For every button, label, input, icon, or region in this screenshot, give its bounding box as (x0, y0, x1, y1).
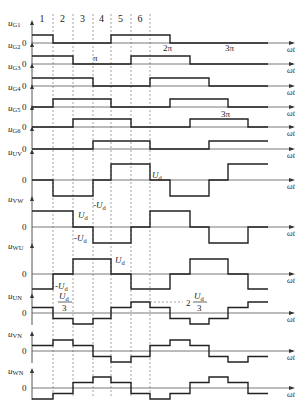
waveform-row-uG5: ωtuG50 (8, 103, 296, 138)
waveform-row-uUN: ωtuUN0 (8, 291, 296, 325)
two-ud-over-3-denominator: 3 (197, 303, 202, 313)
omega-t-label: ωt (287, 353, 296, 362)
omega-t-label: ωt (287, 109, 296, 118)
waveform-row-uVW: ωtuVW0 (8, 194, 296, 247)
y-axis-arrow-icon (30, 20, 34, 25)
waveform-rows: ωtuG10ωtuG20ωtuG30ωtuG40ωtuG50ωtuG60ωtuU… (8, 18, 296, 400)
zero-label: 0 (22, 222, 27, 232)
row-label: uWU (8, 241, 24, 251)
sector-label: 6 (138, 13, 143, 24)
zero-label: 0 (22, 175, 27, 185)
ud-over-3-numerator: Ud (59, 291, 70, 302)
zero-label: 0 (22, 383, 27, 393)
two-ud-over-3-numerator: Ud (194, 291, 205, 302)
three-pi-label: 3π (225, 43, 235, 53)
row-label: uUV (8, 147, 22, 157)
uvw-neg-ud-label: -Ud (74, 233, 88, 244)
uuv-neg-ud-label: -Ud (93, 200, 107, 211)
omega-t-label: ωt (287, 151, 296, 160)
waveform-row-uG2: ωtuG20 (8, 40, 296, 75)
omega-t-label: ωt (287, 229, 296, 238)
zero-label: 0 (22, 269, 27, 279)
uwu-ud-label: Ud (115, 255, 126, 266)
y-axis-arrow-icon (30, 196, 34, 201)
three-pi-label-g4: 3π (221, 109, 231, 119)
zero-label: 0 (22, 81, 27, 91)
zero-label: 0 (22, 59, 27, 69)
row-label: uWN (8, 366, 24, 376)
omega-t-label: ωt (287, 88, 296, 97)
waveform-row-uVN: ωtuVN0 (8, 329, 296, 363)
y-axis-arrow-icon (30, 84, 34, 89)
waveform-row-uG6: ωtuG60 (8, 124, 296, 160)
row-label: uVN (8, 329, 22, 339)
y-axis-arrow-icon (30, 293, 34, 298)
sector-label: 5 (118, 13, 123, 24)
zero-label: 0 (22, 346, 27, 356)
waveform-trace (32, 78, 268, 86)
pi-label: π (93, 53, 98, 63)
sector-label: 4 (99, 13, 104, 24)
zero-label: 0 (22, 308, 27, 318)
sector-label: 3 (80, 13, 85, 24)
zero-label: 0 (22, 38, 27, 48)
omega-t-label: ωt (287, 129, 296, 138)
waveform-row-uG1: ωtuG10 (8, 18, 296, 54)
sector-labels: 123456 (40, 13, 143, 24)
row-label: uG3 (8, 61, 20, 71)
zero-label: 0 (22, 122, 27, 132)
row-label: uG5 (8, 103, 20, 113)
zero-label: 0 (22, 144, 27, 154)
row-label: uG6 (8, 124, 21, 134)
uvw-ud-label: Ud (78, 210, 89, 221)
y-axis-arrow-icon (30, 149, 34, 154)
row-label: uVW (8, 194, 24, 204)
omega-t-label: ωt (287, 276, 296, 285)
uuv-ud-label: Ud (152, 170, 163, 181)
row-label: uG4 (8, 82, 21, 92)
row-label: uG2 (8, 40, 20, 50)
omega-t-label: ωt (287, 66, 296, 75)
two-pi-label: 2π (163, 43, 173, 53)
y-axis-arrow-icon (30, 331, 34, 336)
omega-t-label: ωt (287, 182, 296, 191)
y-axis-arrow-icon (30, 243, 34, 248)
waveform-row-uG4: ωtuG40 (8, 82, 296, 118)
omega-t-label: ωt (287, 390, 296, 399)
zero-label: 0 (22, 102, 27, 112)
row-label: uG1 (8, 18, 20, 28)
waveform-trace (32, 141, 268, 149)
sector-label: 2 (60, 13, 65, 24)
ud-over-3-denominator: 3 (62, 303, 67, 313)
omega-t-label: ωt (287, 45, 296, 54)
y-axis-arrow-icon (30, 368, 34, 373)
waveform-row-uG3: ωtuG30 (8, 61, 296, 97)
sector-label: 1 (40, 13, 45, 24)
two-factor: 2 (186, 298, 191, 308)
omega-t-label: ωt (287, 315, 296, 324)
waveform-row-uWN: ωtuWN0 (8, 366, 296, 400)
row-label: uUN (8, 291, 22, 301)
annotations: π 2π 3π 3π Ud -Ud Ud -Ud Ud -Ud Ud 3 2 U… (55, 43, 235, 313)
waveform-row-uWU: ωtuWU0 (8, 241, 296, 294)
inverter-waveform-diagram: 123456 ωtuG10ωtuG20ωtuG30ωtuG40ωtuG50ωtu… (0, 0, 302, 417)
